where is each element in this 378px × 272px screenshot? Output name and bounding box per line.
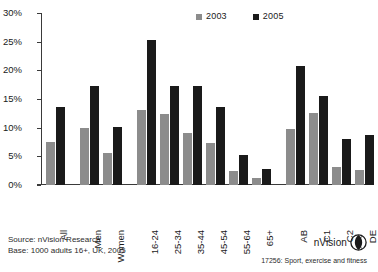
y-tick-label: 20% [3, 66, 22, 76]
bar-2005-25-34 [170, 86, 179, 185]
brand-name: nVision [314, 237, 347, 248]
x-axis-label-45-54: 45-54 [218, 230, 229, 254]
bar-2003-65+ [252, 178, 261, 185]
y-tick-label: 5% [8, 152, 22, 162]
bar-2005-45-54 [216, 107, 225, 185]
y-tick [37, 13, 41, 14]
base-line: Base: 1000 adults 16+, UK, 2005 [8, 246, 126, 257]
y-tick-label: 0% [8, 180, 22, 190]
bar-2005-Men [90, 86, 99, 185]
x-axis-label-65+: 65+ [264, 230, 275, 246]
bar-2005-65+ [262, 169, 271, 185]
y-tick-label: 25% [3, 37, 22, 47]
bar-2003-25-34 [160, 114, 169, 185]
y-tick [37, 156, 41, 157]
bar-2003-35-44 [183, 133, 192, 185]
bar-group [332, 13, 351, 185]
nvision-sphere-icon [350, 234, 367, 251]
bar-2003-AB [286, 129, 295, 185]
brand-logo: nVision [314, 234, 367, 251]
bar-group [160, 13, 179, 185]
bar-2003-55-64 [229, 171, 238, 185]
bar-group [355, 13, 374, 185]
plot-area: 0%5%10%15%20%25%30% [41, 13, 367, 185]
y-tick [37, 42, 41, 43]
source-note: Source: nVision Research Base: 1000 adul… [8, 235, 126, 256]
y-tick [37, 70, 41, 71]
y-tick-label: 30% [3, 8, 22, 18]
bar-2003-45-54 [206, 143, 215, 185]
y-tick-label: 15% [3, 94, 22, 104]
source-line: Source: nVision Research [8, 235, 126, 246]
bar-2003-16-24 [137, 110, 146, 185]
x-axis-label-55-64: 55-64 [241, 230, 252, 254]
bar-group [206, 13, 225, 185]
bar-2003-C2 [332, 167, 341, 185]
bar-2005-DE [365, 135, 374, 185]
x-axis-label-25-34: 25-34 [172, 230, 183, 254]
bar-group [137, 13, 156, 185]
bar-2005-C2 [342, 139, 351, 185]
bar-series-container [42, 13, 367, 185]
bar-group [252, 13, 271, 185]
bar-2003-DE [355, 170, 364, 185]
bar-2005-Women [113, 127, 122, 185]
bar-group [286, 13, 305, 185]
bar-group [80, 13, 99, 185]
reference-caption: 17256: Sport, exercise and fitness [261, 257, 367, 264]
y-tick [37, 99, 41, 100]
bar-group [229, 13, 248, 185]
bar-2005-55-64 [239, 155, 248, 185]
bar-2003-Women [103, 153, 112, 185]
x-axis-labels: AllMenWomen16-2425-3435-4445-5455-6465+A… [41, 186, 367, 232]
x-axis-label-AB: AB [298, 230, 309, 243]
bar-2005-35-44 [193, 86, 202, 185]
bar-2003-All [46, 142, 55, 185]
bar-2005-AB [296, 66, 305, 185]
x-axis-label-DE: DE [367, 230, 378, 243]
x-axis-label-16-24: 16-24 [149, 230, 160, 254]
bar-2003-C1 [309, 113, 318, 185]
bar-2005-All [56, 107, 65, 185]
bar-group [183, 13, 202, 185]
bar-2005-C1 [319, 96, 328, 185]
bar-group [309, 13, 328, 185]
bar-group [103, 13, 122, 185]
bar-2003-Men [80, 128, 89, 185]
bar-group [46, 13, 65, 185]
bar-2005-16-24 [147, 40, 156, 185]
y-tick-label: 10% [3, 123, 22, 133]
x-axis-label-35-44: 35-44 [195, 230, 206, 254]
y-tick [37, 128, 41, 129]
